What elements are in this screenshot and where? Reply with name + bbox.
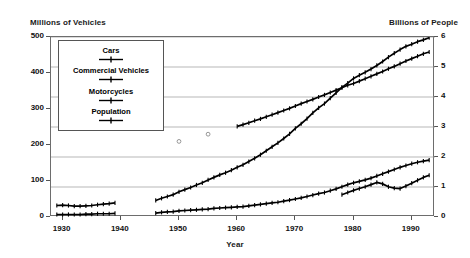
legend-item-label: Population: [91, 108, 130, 116]
legend-item-label: Cars: [103, 47, 120, 55]
y-tick-right-3: 3: [441, 121, 467, 130]
x-tick-1940: 1940: [100, 224, 140, 233]
x-axis-title: Year: [0, 240, 470, 249]
y-tick-left-500: 500: [18, 31, 44, 40]
y-tick-left-100: 100: [18, 175, 44, 184]
vehicles-population-chart: Millions of Vehicles Billions of People …: [0, 0, 470, 258]
legend-item-commercial-vehicles: Commercial Vehicles: [73, 67, 149, 83]
legend-swatch-line: [98, 97, 124, 104]
legend-item-population: Population: [91, 108, 130, 124]
chart-legend: CarsCommercial VehiclesMotorcyclesPopula…: [58, 40, 164, 131]
legend-swatch-line: [98, 117, 124, 124]
x-tick-1990: 1990: [391, 224, 431, 233]
legend-item-motorcycles: Motorcycles: [89, 88, 133, 104]
left-axis-title: Millions of Vehicles: [30, 18, 106, 27]
series-population: [177, 50, 429, 143]
y-tick-right-6: 6: [441, 31, 467, 40]
legend-swatch-line: [98, 56, 124, 63]
series-line: [342, 175, 429, 194]
y-tick-left-200: 200: [18, 139, 44, 148]
isolated-data-point: [177, 140, 181, 144]
y-tick-right-1: 1: [441, 181, 467, 190]
x-tick-1950: 1950: [158, 224, 198, 233]
y-tick-right-0: 0: [441, 211, 467, 220]
right-axis-title: Billions of People: [389, 18, 458, 27]
series-line: [156, 38, 429, 201]
x-tick-1930: 1930: [42, 224, 82, 233]
legend-item-label: Motorcycles: [89, 88, 133, 96]
y-tick-right-5: 5: [441, 61, 467, 70]
series-motorcycles: [342, 173, 429, 197]
y-tick-right-4: 4: [441, 91, 467, 100]
x-tick-1980: 1980: [333, 224, 373, 233]
isolated-data-point: [206, 132, 210, 136]
legend-item-label: Commercial Vehicles: [73, 67, 149, 75]
x-tick-1970: 1970: [274, 224, 314, 233]
y-tick-left-400: 400: [18, 67, 44, 76]
x-tick-1960: 1960: [216, 224, 256, 233]
y-tick-left-300: 300: [18, 103, 44, 112]
legend-swatch-line: [98, 76, 124, 83]
y-tick-left-0: 0: [18, 211, 44, 220]
legend-item-cars: Cars: [98, 47, 124, 63]
y-tick-mark-left: [46, 216, 50, 217]
y-tick-right-2: 2: [441, 151, 467, 160]
